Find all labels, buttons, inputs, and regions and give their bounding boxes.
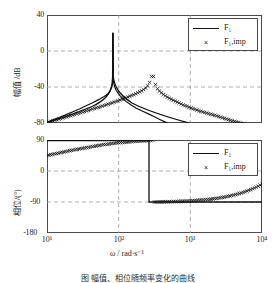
- phase-legend: F₁ × F₁,imp: [188, 143, 258, 176]
- legend-x-marker-swatch: ×: [193, 164, 219, 171]
- xtick-1e1: 10¹: [34, 236, 60, 244]
- x-axis-label: ω / rad·s⁻¹: [110, 249, 144, 258]
- xtick-1e3: 10³: [177, 236, 203, 244]
- xtick-1e2: 10²: [106, 236, 132, 244]
- legend-line-swatch: [193, 153, 219, 154]
- xtick-1e4: 10⁴: [249, 236, 275, 244]
- figure-caption: 图 幅值、相位随频率变化的曲线: [28, 272, 248, 283]
- bode-figure: 40 0 -40 -80 幅值 /dB: [0, 0, 276, 283]
- phase-legend-label-f1imp: F₁,imp: [224, 163, 246, 171]
- phase-legend-row-f1: F₁: [193, 149, 231, 157]
- phase-legend-row-f1imp: × F₁,imp: [193, 163, 246, 171]
- phase-legend-label-f1: F₁: [224, 149, 231, 157]
